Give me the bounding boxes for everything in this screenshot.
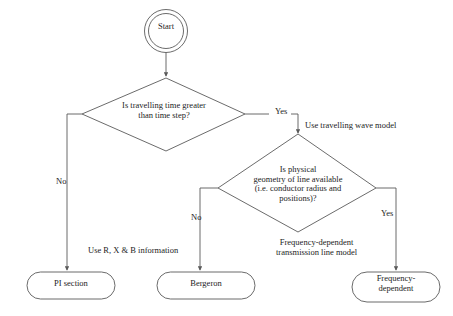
flowchart-graphics <box>0 0 453 316</box>
start-node-outer-circle <box>145 10 188 53</box>
edge-label-yes-time: Yes <box>275 107 287 117</box>
edge-label-yes-geometry: Yes <box>381 209 393 219</box>
flowchart-canvas: Start Is travelling time greater than ti… <box>0 0 453 316</box>
decision-time-diamond <box>82 78 245 151</box>
edge-label-no-geometry: No <box>191 213 201 223</box>
pi-section-terminal-shape <box>27 272 115 299</box>
edge-no-geometry-to-bergeron <box>200 188 218 270</box>
frequency-dependent-terminal-shape <box>352 272 440 302</box>
edge-label-frequency-dependent-model: Frequency-dependent transmission line mo… <box>276 238 357 258</box>
edge-no-time-to-pi-section <box>67 114 82 270</box>
bergeron-terminal-shape <box>157 272 255 299</box>
decision-geometry-diamond <box>218 134 376 232</box>
edge-label-no-time: No <box>56 177 66 187</box>
edge-label-use-rxb-information: Use R, X & B information <box>88 246 178 256</box>
start-node-inner-circle <box>149 14 184 49</box>
edge-label-use-travelling-wave-model: Use travelling wave model <box>305 121 396 131</box>
edge-yes-geometry-to-frequency-dependent <box>376 188 396 270</box>
